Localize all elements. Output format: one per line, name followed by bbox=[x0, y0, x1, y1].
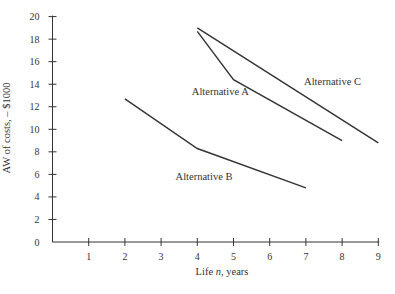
axes bbox=[53, 16, 380, 242]
series-lines bbox=[125, 28, 378, 188]
x-tick-label: 5 bbox=[231, 251, 236, 262]
y-tick-label: 8 bbox=[35, 146, 40, 157]
y-tick-label: 14 bbox=[30, 79, 40, 90]
y-tick-label: 12 bbox=[30, 101, 40, 112]
x-tick-label: 9 bbox=[376, 251, 381, 262]
y-tick-label: 6 bbox=[35, 169, 40, 180]
series-label-alternative-b: Alternative B bbox=[176, 171, 233, 182]
series-labels: Alternative AAlternative BAlternative C bbox=[176, 76, 361, 182]
y-axis-label: AW of costs, – $1000 bbox=[1, 83, 12, 174]
y-tick-label: 20 bbox=[30, 11, 40, 22]
y-tick-label: 10 bbox=[30, 124, 40, 135]
y-tick-label: 18 bbox=[30, 34, 40, 45]
x-tick-label: 7 bbox=[303, 251, 308, 262]
x-tick-label: 3 bbox=[159, 251, 164, 262]
chart: 02468101214161820 123456789 Alternative … bbox=[0, 0, 395, 294]
x-tick-label: 1 bbox=[86, 251, 91, 262]
y-tick-label: 16 bbox=[30, 56, 40, 67]
x-tick-label: 8 bbox=[340, 251, 345, 262]
y-tick-label: 2 bbox=[35, 214, 40, 225]
series-label-alternative-a: Alternative A bbox=[192, 86, 249, 97]
x-tick-label: 2 bbox=[122, 251, 127, 262]
y-tick-label: 0 bbox=[35, 237, 40, 248]
y-tick-label: 4 bbox=[35, 191, 40, 202]
x-tick-label: 4 bbox=[195, 251, 200, 262]
series-label-alternative-c: Alternative C bbox=[304, 76, 361, 87]
x-tick-label: 6 bbox=[267, 251, 272, 262]
x-axis-label: Life n, years bbox=[196, 266, 249, 277]
